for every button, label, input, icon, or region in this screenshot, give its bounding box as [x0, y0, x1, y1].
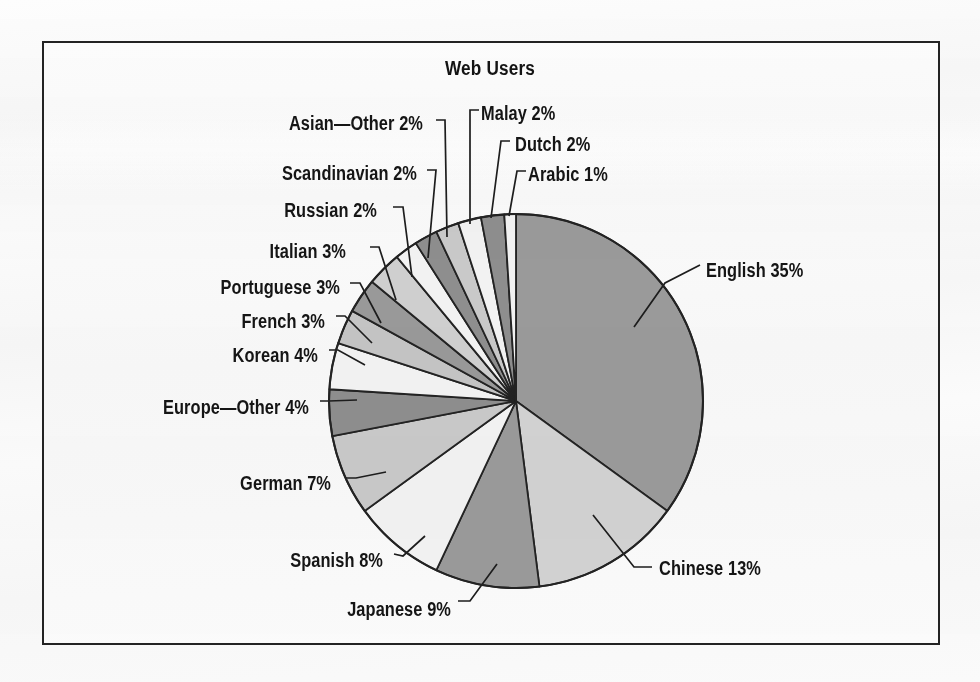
slice-label-english: English 35% [706, 261, 803, 281]
slice-label-asian-other: Asian—Other 2% [68, 114, 423, 134]
leader-line-dutch [491, 141, 510, 218]
slice-label-french: French 3% [52, 312, 325, 332]
slice-label-spanish: Spanish 8% [61, 551, 383, 571]
chart-page: Web Users English 35%Chinese 13%Japanese… [0, 0, 980, 682]
leader-line-arabic [509, 171, 526, 216]
pie-slices-group [329, 214, 703, 588]
leader-line-europe-other [320, 400, 357, 401]
slice-label-japanese: Japanese 9% [72, 600, 451, 620]
slice-label-chinese: Chinese 13% [659, 559, 761, 579]
leader-line-asian-other [436, 120, 447, 237]
slice-label-arabic: Arabic 1% [528, 165, 608, 185]
slice-label-scandinavian: Scandinavian 2% [67, 164, 417, 184]
slice-label-portuguese: Portuguese 3% [54, 278, 340, 298]
slice-label-german: German 7% [53, 474, 331, 494]
leader-line-malay [470, 110, 479, 224]
slice-label-korean: Korean 4% [51, 346, 318, 366]
slice-label-italian: Italian 3% [55, 242, 346, 262]
slice-label-europe-other: Europe—Other 4% [49, 398, 309, 418]
slice-label-dutch: Dutch 2% [515, 135, 590, 155]
slice-label-malay: Malay 2% [481, 104, 555, 124]
slice-label-russian: Russian 2% [60, 201, 377, 221]
